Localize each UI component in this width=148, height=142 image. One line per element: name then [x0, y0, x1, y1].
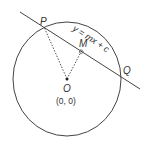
circle-line-diagram: P Q M O (0, 0) y = mx + c — [0, 0, 148, 142]
label-Q: Q — [123, 65, 131, 76]
label-origin: (0, 0) — [56, 96, 76, 106]
label-O: O — [63, 83, 71, 94]
center-point — [66, 78, 69, 81]
label-P: P — [40, 16, 47, 27]
segment-OM — [67, 50, 82, 79]
